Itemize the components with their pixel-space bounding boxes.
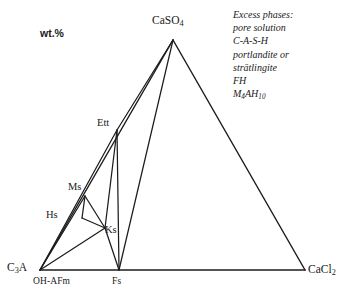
tie-line-ks-to-c3a <box>40 228 105 270</box>
legend-line-stratlingite: strätlingite <box>233 61 345 74</box>
vertex-caso4-sub: 4 <box>179 19 183 28</box>
vertex-cacl2-base: CaCl <box>308 263 332 275</box>
ternary-phase-diagram: wt.% CaSO4 C3A CaCl2 OH-AFm Fs Ett Ms Hs… <box>0 0 346 299</box>
legend-line-heading: Excess phases: <box>233 8 345 21</box>
node-label-hs: Hs <box>46 209 58 220</box>
node-label-ms: Ms <box>68 181 81 192</box>
vertex-label-caso4: CaSO4 <box>152 14 184 27</box>
axis-sub-label-oh-afm: OH-AFm <box>33 277 70 287</box>
vertex-label-c3a: C3A <box>7 261 27 274</box>
vertex-c3a-base: C <box>7 261 15 273</box>
vertex-label-cacl2: CaCl2 <box>308 263 336 276</box>
axis-sub-label-fs: Fs <box>112 277 121 287</box>
triangle-edge-c3a-to-caso4 <box>40 40 173 270</box>
vertex-c3a-tail: A <box>19 261 27 273</box>
legend-line-cash: C-A-S-H <box>233 34 345 47</box>
units-label: wt.% <box>40 28 64 39</box>
excess-phases-legend: Excess phases: pore solution C-A-S-H por… <box>233 8 345 102</box>
tie-line-ett-to-ks <box>105 130 117 228</box>
tie-line-ett-to-fs <box>117 130 119 270</box>
tie-line-caso4-to-fs <box>119 40 173 270</box>
vertex-caso4-base: CaSO <box>152 14 179 26</box>
legend-line-portlandite: portlandite or <box>233 48 345 61</box>
vertex-c3a-sub: 3 <box>15 266 19 275</box>
node-label-ks: Ks <box>105 224 117 235</box>
node-label-ett: Ett <box>97 117 109 128</box>
legend-m4ah10-mid: AH <box>245 88 258 99</box>
legend-m4ah10-sub1: 4 <box>241 93 245 101</box>
vertex-cacl2-sub: 2 <box>332 268 336 277</box>
legend-line-fh: FH <box>233 74 345 87</box>
legend-m4ah10-sub2: 10 <box>258 93 265 101</box>
legend-line-m4ah10: M4AH10 <box>233 87 345 102</box>
legend-line-pore-solution: pore solution <box>233 21 345 34</box>
